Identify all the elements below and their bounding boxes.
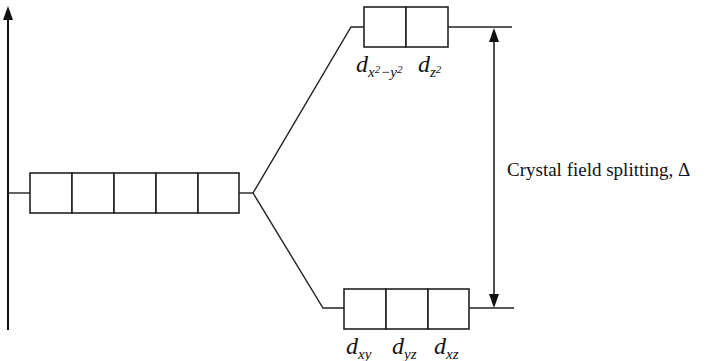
splitting-lines <box>253 27 364 308</box>
arrow-up-icon <box>489 28 499 42</box>
orbital-box-1 <box>30 173 72 213</box>
orbital-box-5 <box>198 173 239 213</box>
orbital-box-dyz <box>386 289 428 329</box>
energy-axis-arrow-icon <box>3 6 13 20</box>
label-dz2: dz2 <box>418 52 441 76</box>
orbital-box-dx2-y2 <box>364 7 406 47</box>
label-dyz: dyz <box>392 334 417 358</box>
orbital-box-dxz <box>428 289 469 329</box>
label-dxz: dxz <box>434 334 459 358</box>
orbital-box-4 <box>156 173 198 213</box>
t2g-level <box>344 289 514 329</box>
orbital-box-3 <box>114 173 156 213</box>
splitting-double-arrow <box>489 28 499 308</box>
energy-axis <box>3 6 13 330</box>
crystal-field-splitting-label: Crystal field splitting, Δ <box>507 159 690 181</box>
label-dxy: dxy <box>346 334 371 358</box>
orbital-box-dz2 <box>406 7 448 47</box>
orbital-box-2 <box>72 173 114 213</box>
degenerate-d-level <box>8 173 253 213</box>
label-dx2-y2: dx2−y2 <box>356 52 402 76</box>
t2g-connector <box>253 193 344 308</box>
arrow-down-icon <box>489 294 499 308</box>
orbital-box-dxy <box>344 289 386 329</box>
eg-connector <box>253 27 364 193</box>
